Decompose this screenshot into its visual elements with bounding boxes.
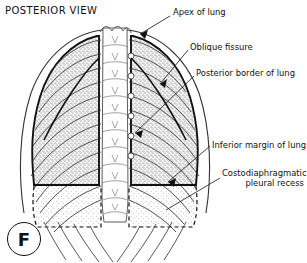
label-costodiaphragmatic-pleural-recess: Costodiaphragmatic pleural recess	[222, 168, 304, 188]
anatomy-illustration	[0, 0, 307, 263]
label-inferior-margin-of-lung: Inferior margin of lung	[212, 140, 306, 150]
label-recess-line2: pleural recess	[245, 178, 304, 188]
panel-letter-badge: F	[7, 222, 41, 256]
label-recess-line1: Costodiaphragmatic	[222, 168, 307, 178]
label-apex-of-lung: Apex of lung	[173, 7, 226, 17]
label-oblique-fissure: Oblique fissure	[190, 42, 253, 52]
label-posterior-border-of-lung: Posterior border of lung	[196, 68, 295, 78]
figure-posterior-thorax: POSTERIOR VIEW	[0, 0, 307, 263]
floating-rib-tips	[44, 222, 186, 262]
vertebral-column	[100, 27, 131, 223]
leader-apex	[140, 16, 170, 34]
